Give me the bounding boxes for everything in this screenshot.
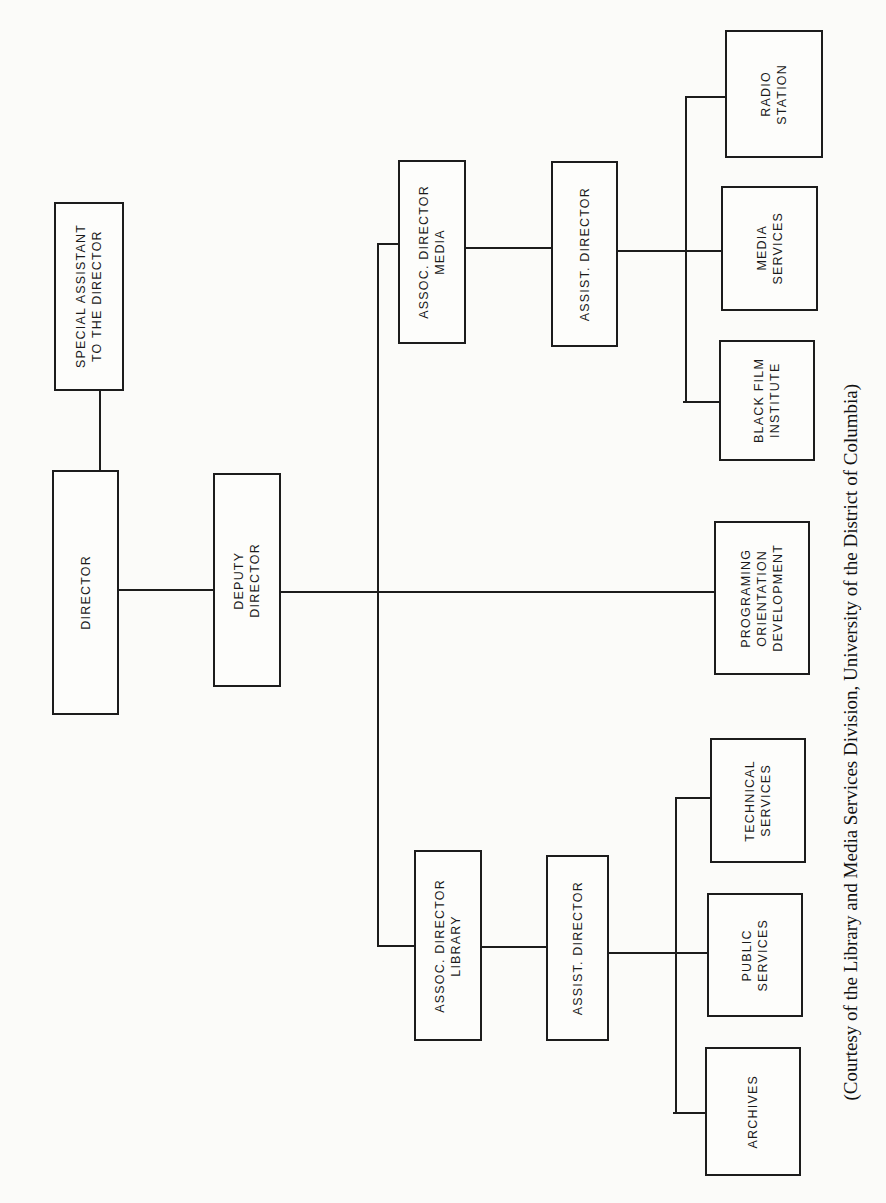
- figure-caption: (Courtesy of the Library and Media Servi…: [836, 300, 866, 1185]
- connector-media-branch-spine: [685, 96, 687, 403]
- node-label: PUBLIC SERVICES: [739, 919, 771, 992]
- node-director: DIRECTOR: [52, 470, 119, 715]
- connector-assoc-library-assist-library: [481, 946, 547, 948]
- node-label: BLACK FILM INSTITUTE: [751, 358, 783, 443]
- node-radio-station: RADIO STATION: [725, 30, 823, 158]
- node-label: PROGRAMING ORIENTATION DEVELOPMENT: [738, 544, 786, 652]
- node-assoc-director-library: ASSOC. DIRECTOR LIBRARY: [414, 850, 482, 1041]
- node-assist-director-media: ASSIST. DIRECTOR: [551, 161, 618, 347]
- connector-director-deputy: [118, 589, 214, 591]
- connector-branch-technical: [676, 797, 711, 799]
- connector-spine-associates: [377, 243, 379, 946]
- node-assoc-director-media: ASSOC. DIRECTOR MEDIA: [398, 160, 466, 344]
- connector-assoc-media-assist-media: [465, 247, 552, 249]
- node-archives: ARCHIVES: [705, 1047, 801, 1176]
- connector-deputy-programing: [280, 591, 715, 593]
- caption-text: (Courtesy of the Library and Media Servi…: [840, 384, 862, 1101]
- node-label: TECHNICAL SERVICES: [742, 760, 774, 842]
- connector-special-assistant-director: [99, 389, 101, 471]
- connector-assist-media-branch: [617, 250, 722, 252]
- node-special-assistant: SPECIAL ASSISTANT TO THE DIRECTOR: [54, 202, 124, 391]
- node-deputy-director: DEPUTY DIRECTOR: [213, 473, 281, 687]
- node-label: ARCHIVES: [745, 1075, 761, 1149]
- connector-assist-library-branch: [607, 952, 708, 954]
- connector-branch-radio: [685, 96, 727, 98]
- connector-spine-library: [377, 945, 415, 947]
- node-media-services: MEDIA SERVICES: [721, 186, 818, 311]
- node-programing-orientation-development: PROGRAMING ORIENTATION DEVELOPMENT: [714, 521, 810, 675]
- node-label: DEPUTY DIRECTOR: [231, 543, 263, 618]
- node-technical-services: TECHNICAL SERVICES: [710, 738, 806, 863]
- node-label: ASSOC. DIRECTOR MEDIA: [416, 185, 448, 319]
- node-label: DIRECTOR: [78, 555, 94, 630]
- connector-branch-archives: [673, 1112, 706, 1114]
- node-label: ASSOC. DIRECTOR LIBRARY: [432, 879, 464, 1013]
- node-black-film-institute: BLACK FILM INSTITUTE: [719, 340, 815, 461]
- node-label: SPECIAL ASSISTANT TO THE DIRECTOR: [73, 224, 105, 368]
- node-assist-director-library: ASSIST. DIRECTOR: [546, 855, 609, 1041]
- connector-spine-media: [377, 243, 399, 245]
- node-label: RADIO STATION: [758, 64, 790, 125]
- node-label: MEDIA SERVICES: [754, 212, 786, 285]
- node-label: ASSIST. DIRECTOR: [570, 881, 586, 1015]
- node-label: ASSIST. DIRECTOR: [577, 187, 593, 321]
- connector-library-branch-spine: [675, 797, 677, 1114]
- node-public-services: PUBLIC SERVICES: [707, 893, 803, 1017]
- connector-branch-black-film: [683, 401, 720, 403]
